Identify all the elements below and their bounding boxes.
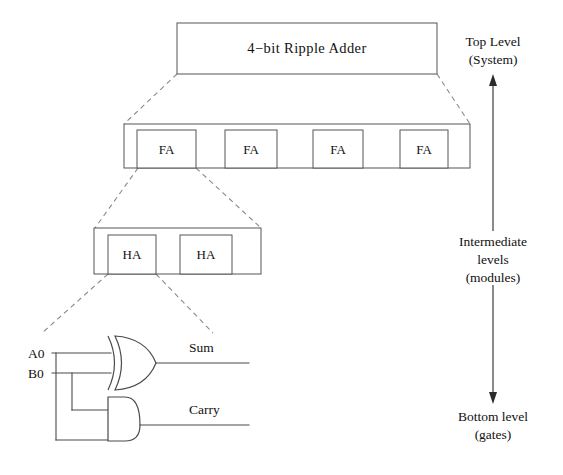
level-annotation-middle: Intermediate levels (modules) xyxy=(459,234,527,285)
fa-row-container: FA FA FA FA xyxy=(124,124,470,168)
output-sum-label: Sum xyxy=(189,340,214,355)
fa-block-2-label: FA xyxy=(330,142,346,157)
ha-block-1-label: HA xyxy=(197,247,216,262)
ha-row-container: HA HA xyxy=(94,228,261,274)
and-gate xyxy=(108,397,140,441)
dashed-link-fa-right xyxy=(196,168,261,228)
level-annotation-top-line1: Top Level xyxy=(466,34,521,49)
level-annotation-top: Top Level (System) xyxy=(466,34,521,67)
level-annotation-bottom: Bottom level (gates) xyxy=(458,409,528,442)
input-pin-a0-label: A0 xyxy=(28,346,45,361)
gate-level-schematic: A0 B0 Sum Carry xyxy=(28,336,249,441)
fa-block-0-label: FA xyxy=(159,142,175,157)
hierarchy-diagram: 4−bit Ripple Adder FA FA FA FA xyxy=(0,0,563,475)
input-pin-b0-label: B0 xyxy=(28,366,44,381)
dashed-link-top-left xyxy=(124,74,177,124)
expansion-links-top xyxy=(124,74,470,124)
output-carry-label: Carry xyxy=(189,402,220,417)
level-annotation-bottom-line1: Bottom level xyxy=(458,409,528,424)
xor-gate-back-arc-outer xyxy=(108,336,115,390)
xor-gate-body xyxy=(115,336,156,390)
diagram-canvas: 4−bit Ripple Adder FA FA FA FA xyxy=(0,0,563,475)
expansion-links-ha-to-gates xyxy=(42,274,213,333)
level-annotation-middle-line3: (modules) xyxy=(466,270,521,285)
dashed-link-top-right xyxy=(437,74,470,124)
ha-block-0-label: HA xyxy=(123,247,142,262)
and-gate-body xyxy=(108,397,140,441)
dashed-link-fa-left xyxy=(95,168,138,228)
fa-block-3-label: FA xyxy=(416,142,432,157)
fa-block-2: FA xyxy=(313,130,363,168)
top-level-system-block: 4−bit Ripple Adder xyxy=(177,23,437,74)
level-span-arrow-head-down xyxy=(489,392,497,404)
expansion-links-fa-to-ha xyxy=(95,168,261,228)
fa-block-0: FA xyxy=(137,130,196,168)
fa-block-3: FA xyxy=(400,130,448,168)
level-span-arrow-head-up xyxy=(489,74,497,86)
fa-block-1: FA xyxy=(225,130,277,168)
dashed-link-ha-left xyxy=(42,274,108,333)
level-annotation-top-line2: (System) xyxy=(469,52,518,67)
level-annotation-middle-line1: Intermediate xyxy=(459,234,527,249)
ha-block-0: HA xyxy=(108,235,156,274)
ha-block-1: HA xyxy=(180,235,232,274)
xor-gate xyxy=(108,336,156,390)
fa-block-1-label: FA xyxy=(243,142,259,157)
level-annotation-bottom-line2: (gates) xyxy=(475,427,512,442)
dashed-link-ha-right xyxy=(156,274,213,333)
top-level-block-label: 4−bit Ripple Adder xyxy=(247,40,366,56)
level-annotation-middle-line2: levels xyxy=(477,252,509,267)
